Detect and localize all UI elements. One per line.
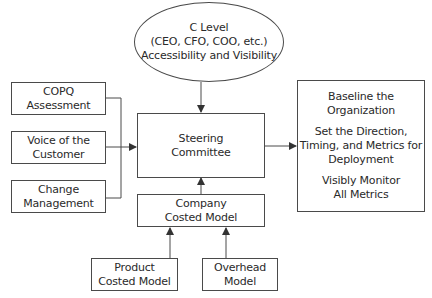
overhead-model-node: Overhead Model bbox=[202, 258, 278, 291]
copq-line-1: COPQ bbox=[43, 85, 74, 99]
c-level-subtitle: Accessibility and Visibility bbox=[141, 49, 277, 63]
outcome-monitor-1: Visibly Monitor bbox=[322, 174, 400, 188]
steering-line-2: Committee bbox=[171, 146, 230, 160]
voc-line-2: Customer bbox=[33, 148, 85, 162]
product-costed-model-node: Product Costed Model bbox=[91, 258, 178, 291]
outcomes-node: Baseline the Organization Set the Direct… bbox=[297, 80, 425, 212]
copq-assessment-node: COPQ Assessment bbox=[11, 82, 106, 115]
overhead-line-2: Model bbox=[224, 275, 256, 289]
outcome-monitor-2: All Metrics bbox=[334, 188, 389, 202]
outcome-baseline-2: Organization bbox=[327, 104, 395, 118]
outcome-direction-3: Deployment bbox=[328, 153, 393, 167]
c-level-title: C Level bbox=[190, 21, 229, 35]
copq-line-2: Assessment bbox=[27, 99, 91, 113]
company-costed-model-node: Company Costed Model bbox=[137, 194, 265, 227]
change-line-1: Change bbox=[38, 183, 79, 197]
outcome-direction-1: Set the Direction, bbox=[315, 125, 408, 139]
change-line-2: Management bbox=[23, 197, 93, 211]
outcome-direction-2: Timing, and Metrics for bbox=[300, 139, 422, 153]
product-line-1: Product bbox=[114, 261, 154, 275]
voc-line-1: Voice of the bbox=[27, 134, 90, 148]
overhead-line-1: Overhead bbox=[214, 261, 266, 275]
change-management-node: Change Management bbox=[11, 180, 106, 213]
company-line-1: Company bbox=[176, 197, 227, 211]
c-level-roles: (CEO, CFO, COO, etc.) bbox=[151, 35, 268, 49]
voice-of-customer-node: Voice of the Customer bbox=[11, 131, 106, 164]
steering-committee-node: Steering Committee bbox=[137, 113, 265, 178]
outcome-baseline-1: Baseline the bbox=[328, 90, 394, 104]
company-line-2: Costed Model bbox=[165, 211, 237, 225]
c-level-node: C Level (CEO, CFO, COO, etc.) Accessibil… bbox=[134, 2, 284, 82]
product-line-2: Costed Model bbox=[98, 275, 170, 289]
steering-line-1: Steering bbox=[179, 132, 224, 146]
